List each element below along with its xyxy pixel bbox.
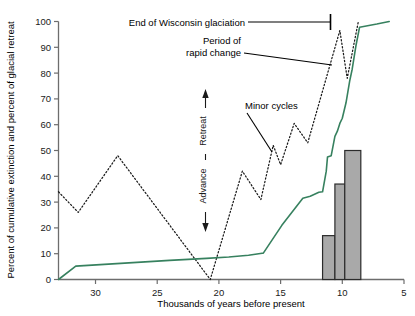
annotation-period-of-rapid-change-line2: rapid change [186, 47, 241, 58]
y-axis-ticks [54, 22, 59, 280]
annotation-minor-cycles: Minor cycles [245, 100, 298, 111]
x-tick-label: 30 [90, 287, 101, 298]
x-tick-label: 15 [275, 287, 286, 298]
y-tick-label: 80 [40, 68, 51, 79]
y-axis-title: Percent of cumulative extinction and per… [5, 21, 16, 279]
annotation-end-of-wisconsin-glaciation: End of Wisconsin glaciation [129, 17, 245, 28]
x-tick-label: 20 [214, 287, 225, 298]
extinction-bar [323, 236, 335, 280]
y-tick-label: 10 [40, 248, 51, 259]
x-axis-tick-labels: 30252015105 [90, 287, 406, 298]
y-tick-label: 100 [35, 16, 51, 27]
minor-cycles-leader [247, 113, 272, 152]
x-tick-label: 5 [401, 287, 406, 298]
advance-retreat-arrow [197, 89, 214, 232]
annotation-period-of-rapid-change-line1: Period of [203, 35, 241, 46]
x-tick-label: 25 [152, 287, 163, 298]
y-tick-label: 60 [40, 119, 51, 130]
y-tick-label: 70 [40, 93, 51, 104]
y-axis-tick-labels: 0102030405060708090100 [35, 16, 51, 285]
extinction-episode-bars [323, 151, 361, 280]
chart-canvas: 0102030405060708090100 30252015105 End o… [0, 0, 415, 316]
y-tick-label: 30 [40, 197, 51, 208]
figure-glacial-retreat-extinction: 0102030405060708090100 30252015105 End o… [0, 0, 415, 316]
y-tick-label: 40 [40, 171, 51, 182]
end-of-wisconsin-marker [248, 14, 331, 30]
y-tick-label: 0 [46, 274, 51, 285]
x-axis-ticks [96, 280, 404, 285]
y-tick-label: 50 [40, 145, 51, 156]
x-axis-title: Thousands of years before present [157, 298, 305, 309]
y-tick-label: 20 [40, 222, 51, 233]
extinction-bar [345, 151, 361, 280]
period-of-rapid-change-leader [244, 53, 332, 65]
arrow-label-retreat: Retreat [198, 116, 208, 146]
extinction-bar [335, 184, 345, 279]
arrow-label-advance: Advance [198, 168, 208, 203]
y-tick-label: 90 [40, 42, 51, 53]
x-tick-label: 10 [337, 287, 348, 298]
